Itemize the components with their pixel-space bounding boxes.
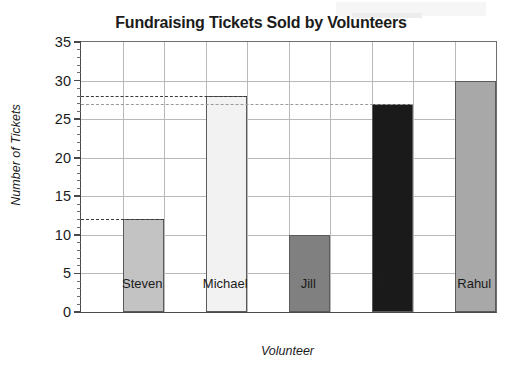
y-axis-minor-tick bbox=[77, 134, 81, 135]
y-axis-minor-tick bbox=[77, 103, 81, 104]
y-axis-tick-label: 0 bbox=[31, 305, 71, 320]
x-axis-label: Volunteer bbox=[80, 344, 495, 358]
y-axis-minor-tick bbox=[77, 150, 81, 151]
y-axis-minor-tick bbox=[77, 165, 81, 166]
y-axis-tick-label: 20 bbox=[31, 150, 71, 165]
y-axis-minor-tick bbox=[77, 173, 81, 174]
y-axis-tick-label: 15 bbox=[31, 189, 71, 204]
y-axis-minor-tick bbox=[77, 219, 81, 220]
y-axis-tick-label: 5 bbox=[31, 266, 71, 281]
y-axis-tick bbox=[74, 41, 81, 43]
plot-area: 05101520253035 bbox=[80, 41, 497, 313]
x-tick-label-zach: Zach bbox=[377, 276, 406, 291]
annotation-layer bbox=[81, 42, 496, 312]
y-axis-minor-tick bbox=[77, 250, 81, 251]
y-axis-minor-tick bbox=[77, 242, 81, 243]
y-axis-minor-tick bbox=[77, 211, 81, 212]
y-axis-minor-tick bbox=[77, 281, 81, 282]
y-axis-tick bbox=[74, 234, 81, 236]
x-tick-label-rahul: Rahul bbox=[457, 276, 491, 291]
y-axis-tick-label: 10 bbox=[31, 228, 71, 243]
y-axis-tick-label: 25 bbox=[31, 112, 71, 127]
y-axis-minor-tick bbox=[77, 288, 81, 289]
y-axis-minor-tick bbox=[77, 57, 81, 58]
y-axis-minor-tick bbox=[77, 188, 81, 189]
y-axis-minor-tick bbox=[77, 227, 81, 228]
y-axis-minor-tick bbox=[77, 265, 81, 266]
y-axis-minor-tick bbox=[77, 142, 81, 143]
x-tick-label-steven: Steven bbox=[122, 276, 162, 291]
y-axis-label: Number of Tickets bbox=[9, 75, 23, 235]
y-axis-minor-tick bbox=[77, 88, 81, 89]
y-axis-tick-label: 30 bbox=[31, 73, 71, 88]
y-axis-tick-label: 35 bbox=[31, 35, 71, 50]
y-axis-tick bbox=[74, 157, 81, 159]
y-axis-minor-tick bbox=[77, 49, 81, 50]
annotation-dashed-line-12 bbox=[81, 219, 164, 220]
y-axis-tick bbox=[74, 118, 81, 120]
annotation-dashed-line-28 bbox=[81, 96, 247, 97]
x-tick-label-michael: Michael bbox=[203, 276, 248, 291]
y-axis-minor-tick bbox=[77, 180, 81, 181]
annotation-dashed-line-27 bbox=[81, 104, 413, 105]
y-axis-minor-tick bbox=[77, 204, 81, 205]
y-axis-minor-tick bbox=[77, 111, 81, 112]
y-axis-tick bbox=[74, 311, 81, 313]
y-axis-minor-tick bbox=[77, 304, 81, 305]
y-axis-minor-tick bbox=[77, 96, 81, 97]
y-axis-tick bbox=[74, 195, 81, 197]
y-axis-minor-tick bbox=[77, 296, 81, 297]
y-axis-minor-tick bbox=[77, 126, 81, 127]
y-axis-tick bbox=[74, 273, 81, 275]
bar-chart: Fundraising Tickets Sold by Volunteers N… bbox=[0, 0, 522, 369]
x-tick-label-jill: Jill bbox=[301, 276, 316, 291]
chart-title: Fundraising Tickets Sold by Volunteers bbox=[0, 14, 522, 32]
y-axis-minor-tick bbox=[77, 258, 81, 259]
y-axis-minor-tick bbox=[77, 65, 81, 66]
y-axis-minor-tick bbox=[77, 72, 81, 73]
y-axis-tick bbox=[74, 80, 81, 82]
